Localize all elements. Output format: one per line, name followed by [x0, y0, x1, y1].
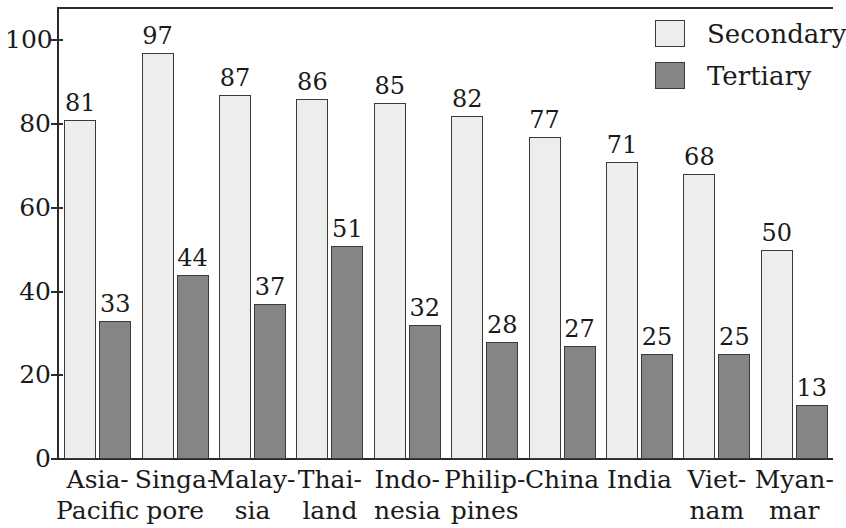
bar-value-label: 97 — [136, 24, 180, 48]
bar-value-label: 28 — [480, 313, 524, 337]
bar-tertiary[interactable] — [409, 325, 441, 459]
bar-group: 7727 — [529, 7, 596, 459]
x-axis-tick-label: Asia-Pacific — [53, 464, 142, 526]
bar-value-label: 87 — [213, 66, 257, 90]
bar-group: 8133 — [64, 7, 131, 459]
x-axis-label-line1: Philip- — [440, 464, 529, 495]
bar-secondary[interactable] — [219, 95, 251, 459]
bar-value-label: 85 — [368, 74, 412, 98]
bar-tertiary[interactable] — [99, 321, 131, 459]
bar-secondary[interactable] — [374, 103, 406, 459]
legend-swatch-secondary — [655, 20, 685, 47]
legend-label: Tertiary — [707, 63, 812, 89]
x-axis-tick-label: Indo-nesia — [363, 464, 452, 526]
bar-group: 8532 — [374, 7, 441, 459]
x-axis-label-line1: India — [595, 464, 684, 495]
bar-value-label: 71 — [600, 133, 644, 157]
bar-value-label: 25 — [712, 325, 756, 349]
x-axis-label-line1: Indo- — [363, 464, 452, 495]
bar-value-label: 68 — [677, 145, 721, 169]
y-axis: 020406080100 — [0, 0, 51, 528]
bar-value-label: 27 — [558, 317, 602, 341]
x-axis-tick-label: China — [517, 464, 606, 495]
bar-secondary[interactable] — [64, 120, 96, 459]
x-axis-label-line2: nesia — [363, 495, 452, 526]
x-axis-tick-label: Philip-pines — [440, 464, 529, 526]
y-axis-tick-label: 100 — [5, 27, 51, 52]
y-axis-tick-label: 20 — [5, 362, 51, 387]
bar-secondary[interactable] — [761, 250, 793, 459]
x-axis-label-line2: pore — [130, 495, 219, 526]
bar-value-label: 33 — [93, 292, 137, 316]
bar-tertiary[interactable] — [331, 246, 363, 459]
x-axis-tick-label: Malay-sia — [208, 464, 297, 526]
bar-group: 8228 — [451, 7, 518, 459]
y-axis-tick-label: 40 — [5, 279, 51, 304]
bar-tertiary[interactable] — [486, 342, 518, 459]
bar-secondary[interactable] — [451, 116, 483, 459]
bar-secondary[interactable] — [606, 162, 638, 459]
bar-secondary[interactable] — [529, 137, 561, 459]
bar-value-label: 77 — [523, 108, 567, 132]
bar-value-label: 51 — [325, 217, 369, 241]
bar-value-label: 44 — [171, 246, 215, 270]
y-axis-tick-label: 80 — [5, 111, 51, 136]
x-axis-label-line1: China — [517, 464, 606, 495]
bar-secondary[interactable] — [296, 99, 328, 459]
bar-value-label: 50 — [755, 221, 799, 245]
legend-item[interactable]: Tertiary — [655, 62, 812, 89]
x-axis-tick-label: India — [595, 464, 684, 495]
bar-value-label: 37 — [248, 275, 292, 299]
bar-value-label: 81 — [58, 91, 102, 115]
x-axis-label-line2: Pacific — [53, 495, 142, 526]
bar-tertiary[interactable] — [564, 346, 596, 459]
bar-tertiary[interactable] — [718, 354, 750, 459]
bar-tertiary[interactable] — [641, 354, 673, 459]
bar-group: 8651 — [296, 7, 363, 459]
bar-tertiary[interactable] — [254, 304, 286, 459]
x-axis-label-line1: Myan- — [750, 464, 839, 495]
x-axis: Asia-PacificSinga-poreMalay-siaThai-land… — [59, 464, 833, 528]
x-axis-label-line1: Viet- — [672, 464, 761, 495]
x-axis-tick-label: Myan-mar — [750, 464, 839, 526]
x-axis-label-line1: Singa- — [130, 464, 219, 495]
x-axis-label-line1: Asia- — [53, 464, 142, 495]
y-axis-tick-label: 0 — [5, 446, 51, 471]
bar-group: 9744 — [142, 7, 209, 459]
bar-value-label: 82 — [445, 87, 489, 111]
bar-value-label: 86 — [290, 70, 334, 94]
x-axis-label-line2: pines — [440, 495, 529, 526]
bar-tertiary[interactable] — [177, 275, 209, 459]
bar-secondary[interactable] — [142, 53, 174, 459]
legend-label: Secondary — [707, 21, 846, 47]
y-axis-tick-label: 60 — [5, 195, 51, 220]
bar-value-label: 13 — [790, 376, 834, 400]
x-axis-label-line1: Thai- — [285, 464, 374, 495]
x-axis-label-line2: sia — [208, 495, 297, 526]
bar-group: 8737 — [219, 7, 286, 459]
legend-swatch-tertiary — [655, 62, 685, 89]
x-axis-label-line2: land — [285, 495, 374, 526]
legend-item[interactable]: Secondary — [655, 20, 846, 47]
x-axis-label-line2: nam — [672, 495, 761, 526]
bar-value-label: 25 — [635, 325, 679, 349]
x-axis-label-line2: mar — [750, 495, 839, 526]
x-axis-tick-label: Thai-land — [285, 464, 374, 526]
bar-tertiary[interactable] — [796, 405, 828, 459]
x-axis-label-line1: Malay- — [208, 464, 297, 495]
x-axis-tick-label: Singa-pore — [130, 464, 219, 526]
bar-value-label: 32 — [403, 296, 447, 320]
x-axis-tick-label: Viet-nam — [672, 464, 761, 526]
bar-secondary[interactable] — [683, 174, 715, 459]
